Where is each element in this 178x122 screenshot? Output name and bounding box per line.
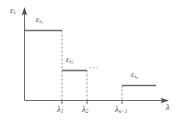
step-function-figure: ελ λ ελ1 ελ2 ελn ··· λ1 λ2 λn−1	[0, 0, 178, 122]
tick-label-lambda-n-minus-1-sub: n−1	[119, 108, 128, 114]
y-axis-label-sub: λ	[13, 9, 15, 15]
step-1-label-sub: λ1	[39, 19, 43, 24]
tick-label-lambda-2: λ2	[82, 105, 88, 115]
x-axis-label: λ	[166, 103, 170, 112]
step-2-label: ελ2	[66, 56, 73, 66]
step-1-label-sub2: 1	[41, 21, 43, 25]
step-1-label: ελ1	[36, 16, 43, 26]
tick-label-lambda-n-minus-1: λn−1	[115, 105, 128, 115]
step-2-label-sub: λ2	[69, 59, 73, 64]
step-3-label-sub2: n	[136, 76, 138, 80]
x-axis	[25, 98, 170, 104]
step-3-label-sub: λn	[134, 74, 138, 79]
step-2-label-sub2: 2	[71, 61, 73, 65]
tick-label-lambda-1-sub: 1	[61, 108, 64, 114]
step-3-label: ελn	[131, 71, 138, 81]
y-axis-label: ελ	[10, 6, 16, 16]
chart-canvas	[0, 0, 178, 122]
tick-label-lambda-1: λ1	[57, 105, 63, 115]
x-axis-label-base: λ	[166, 102, 170, 112]
tick-label-lambda-2-sub: 2	[86, 108, 89, 114]
y-axis	[22, 7, 28, 100]
ellipsis-continuation: ···	[89, 63, 99, 72]
